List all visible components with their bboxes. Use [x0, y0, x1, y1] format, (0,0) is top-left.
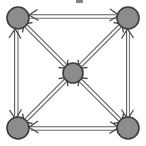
graph-diagram-canvas [0, 0, 146, 146]
edge-diag-tr-stroke-b [79, 25, 118, 64]
edge-diagonal-bottom-left[interactable] [23, 78, 68, 124]
edge-diag-br-stroke-a [82, 79, 121, 118]
edge-top[interactable] [29, 9, 119, 21]
edge-bottom[interactable] [29, 121, 119, 134]
node-center[interactable] [63, 63, 83, 83]
graph-svg [0, 0, 146, 146]
edge-diag-bl-stroke-a [25, 79, 64, 118]
edge-diag-tl-stroke-b [27, 25, 66, 64]
edge-diagonal-top-left[interactable] [23, 23, 68, 69]
edge-diagonal-top-right[interactable] [78, 23, 123, 69]
edge-diag-bl-stroke-b [27, 82, 66, 121]
node-top-right[interactable] [117, 7, 139, 29]
edge-diag-tr-stroke-a [82, 27, 121, 66]
edge-left[interactable] [9, 29, 22, 119]
node-bottom-right[interactable] [117, 117, 139, 139]
edge-right[interactable] [122, 29, 134, 119]
node-bottom-left[interactable] [7, 117, 29, 139]
edge-diagonal-bottom-right[interactable] [78, 78, 123, 124]
edge-diag-tl-stroke-a [25, 27, 64, 66]
node-top-left[interactable] [7, 7, 29, 29]
edge-diag-br-stroke-b [79, 82, 118, 121]
nodes-layer [7, 7, 139, 139]
scan-artifact-mark [76, 0, 83, 3]
